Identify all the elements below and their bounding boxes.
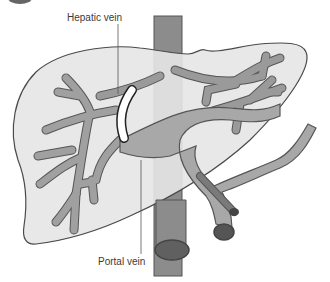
hepatic-vein-label: Hepatic vein (67, 12, 122, 23)
figure-marker (8, 0, 32, 4)
vena-cava-opening (155, 200, 189, 260)
liver-diagram (0, 0, 330, 282)
portal-vein-label: Portal vein (98, 256, 145, 267)
